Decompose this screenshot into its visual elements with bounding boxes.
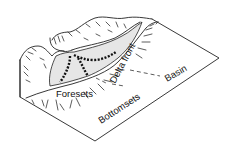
delta-block-diagram: Foresets Bottomsets Delta front Basin [0, 0, 233, 150]
label-bottomsets: Bottomsets [96, 90, 142, 125]
label-foresets: Foresets [56, 88, 93, 99]
basin-dashes [96, 70, 160, 86]
back-hill-front [50, 38, 72, 52]
